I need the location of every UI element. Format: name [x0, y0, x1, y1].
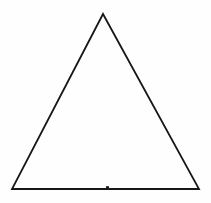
triangle-figure-svg [0, 0, 211, 203]
triangle-outline [12, 14, 199, 189]
figure-canvas [0, 0, 211, 203]
baseline-tick-mark [106, 186, 109, 189]
